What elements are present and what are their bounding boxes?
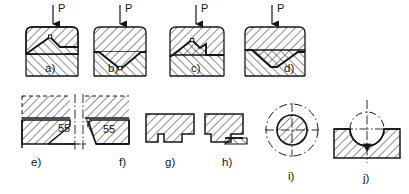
panel-h: h) <box>205 114 247 168</box>
load-label-a: P <box>58 2 65 14</box>
diagram-canvas: P a) P <box>0 0 409 194</box>
panel-f: 55 f) <box>70 94 129 168</box>
panel-label-j: j) <box>362 172 370 184</box>
panel-j: j) <box>334 100 400 184</box>
panel-label-e: e) <box>31 156 41 168</box>
panel-label-d: d) <box>284 62 294 74</box>
panel-d: P d) <box>245 2 305 76</box>
angle-label-e: 55 <box>58 122 70 134</box>
load-label-b: P <box>125 2 132 14</box>
panel-label-a: a) <box>45 62 55 74</box>
panel-e: 55 e) <box>22 94 88 168</box>
technical-diagram-figure: P a) P <box>0 0 409 194</box>
panel-label-f: f) <box>119 156 126 168</box>
stepped-block-g <box>146 114 194 142</box>
upper-block-e <box>22 96 70 118</box>
panel-label-c: c) <box>191 62 201 74</box>
angle-label-f: 55 <box>103 123 115 135</box>
apex-marker-a <box>49 35 52 38</box>
panel-b: P b) <box>94 2 146 76</box>
apex-marker-b <box>118 66 121 69</box>
panel-i: i) <box>265 103 319 182</box>
load-label-c: P <box>201 2 208 14</box>
upper-die-d <box>245 27 305 50</box>
panel-label-i: i) <box>288 170 295 182</box>
corner-marker-f <box>87 119 90 122</box>
panel-a: P a) <box>26 2 78 76</box>
upper-block-f <box>85 96 129 118</box>
panel-label-b: b) <box>108 62 118 74</box>
load-label-d: P <box>277 2 284 14</box>
panel-g: g) <box>146 114 194 168</box>
panel-label-g: g) <box>165 156 175 168</box>
upper-die-b <box>94 27 146 52</box>
panel-label-h: h) <box>222 156 232 168</box>
panel-c: P c) <box>170 2 224 76</box>
apex-marker-c <box>191 38 194 41</box>
